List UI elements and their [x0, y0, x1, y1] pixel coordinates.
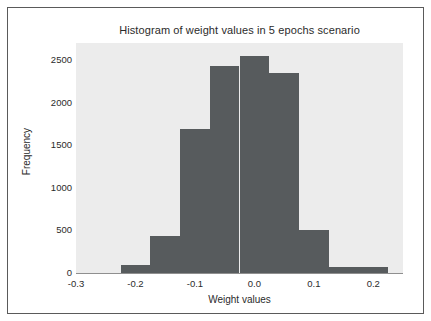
- figure-frame: Histogram of weight values in 5 epochs s…: [7, 7, 424, 314]
- histogram-bar: [150, 236, 180, 273]
- x-tick-label: 0.1: [292, 278, 336, 289]
- x-axis-line: [76, 273, 403, 274]
- histogram-bar: [269, 73, 299, 273]
- y-tick-label: 2000: [32, 97, 72, 108]
- x-tick-label: -0.2: [113, 278, 157, 289]
- y-tick-label: 0: [32, 267, 72, 278]
- histogram-bar: [180, 129, 210, 273]
- y-axis-ticks: 05001000150020002500: [26, 8, 72, 321]
- histogram-bar: [210, 66, 240, 273]
- x-axis-label: Weight values: [76, 294, 403, 305]
- y-tick-label: 500: [32, 224, 72, 235]
- x-tick-label: -0.3: [54, 278, 98, 289]
- figure: Histogram of weight values in 5 epochs s…: [0, 0, 431, 321]
- x-tick-label: 0.2: [351, 278, 395, 289]
- y-tick-label: 1500: [32, 139, 72, 150]
- x-tick-label: -0.1: [173, 278, 217, 289]
- plot-area: [76, 43, 403, 273]
- x-tick-label: 0.0: [232, 278, 276, 289]
- chart-title: Histogram of weight values in 5 epochs s…: [76, 24, 403, 36]
- histogram-bar: [240, 56, 270, 273]
- x-axis-ticks: -0.3-0.2-0.10.00.10.2: [8, 278, 431, 294]
- histogram-bar: [121, 265, 151, 273]
- histogram-bar: [299, 230, 329, 273]
- y-tick-label: 2500: [32, 54, 72, 65]
- y-tick-label: 1000: [32, 182, 72, 193]
- y-axis-label: Frequency: [21, 107, 32, 197]
